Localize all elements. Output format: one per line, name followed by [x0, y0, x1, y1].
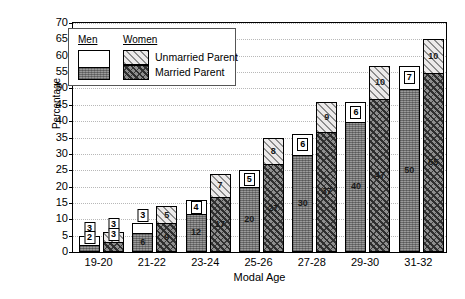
y-tick-label: 70 — [28, 17, 68, 28]
women-married-value: 37 — [321, 187, 333, 196]
y-tick-label: 5 — [28, 230, 68, 241]
y-tick-mark — [69, 252, 73, 253]
women-unmarried-value: 10 — [374, 78, 386, 87]
men-married-segment: 40 — [346, 122, 365, 251]
men-unmarried-value: 6 — [350, 106, 361, 119]
y-tick-label: 40 — [28, 115, 68, 126]
men-married-value: 40 — [350, 182, 362, 191]
y-tick-label: 20 — [28, 181, 68, 192]
y-tick-label: 15 — [28, 197, 68, 208]
women-unmarried-segment: 8 — [264, 139, 283, 165]
women-married-segment: 9 — [157, 223, 176, 251]
men-married-segment: 20 — [240, 187, 259, 251]
men-unmarried-segment: 5 — [240, 171, 259, 187]
y-axis-ticks: 7065605550454035302520151050 — [22, 22, 68, 253]
men-bar: 630 — [292, 134, 313, 252]
men-married-value: 20 — [243, 215, 255, 224]
men-married-value: 30 — [297, 199, 309, 208]
women-married-segment: 27 — [264, 164, 283, 251]
women-married-segment: 3 — [104, 242, 123, 251]
men-unmarried-value: 5 — [244, 173, 255, 186]
women-unmarried-segment: 7 — [211, 175, 230, 197]
x-tick-label: 31-32 — [392, 256, 445, 268]
women-unmarried-value: 7 — [217, 181, 224, 190]
legend-label-married: Married Parent — [155, 65, 224, 80]
bar-chart: Percentage 7065605550454035302520151050 … — [0, 0, 465, 299]
women-married-segment: 37 — [317, 132, 336, 251]
y-tick-label: 65 — [28, 33, 68, 44]
women-bar: 937 — [316, 102, 337, 252]
women-unmarried-value: 10 — [427, 52, 439, 61]
women-unmarried-segment: 5 — [157, 207, 176, 223]
x-tick-label: 19-20 — [72, 256, 125, 268]
chart-legend: Men Women Unmarried Parent Married Paren… — [68, 28, 236, 86]
men-married-segment: 30 — [293, 155, 312, 251]
legend-swatch-women-married — [123, 65, 149, 80]
women-married-segment: 47 — [370, 99, 389, 251]
men-unmarried-value: 3 — [137, 209, 148, 222]
men-unmarried-segment: 4 — [187, 201, 206, 214]
women-bar: 1055 — [423, 39, 444, 252]
men-unmarried-value: 4 — [191, 201, 202, 214]
women-bar: 59 — [156, 206, 177, 252]
x-tick-label: 25-26 — [232, 256, 285, 268]
y-tick-label: 10 — [28, 213, 68, 224]
women-married-value: 3 — [108, 228, 119, 241]
women-unmarried-segment: 9 — [317, 103, 336, 132]
men-married-value: 12 — [190, 228, 202, 237]
legend-header-women: Women — [123, 34, 157, 45]
women-unmarried-value: 9 — [323, 113, 330, 122]
men-married-value: 6 — [139, 238, 146, 247]
men-married-value: 50 — [403, 166, 415, 175]
women-married-value: 27 — [267, 204, 279, 213]
women-unmarried-segment: 10 — [370, 67, 389, 99]
bar-group: 520827 — [233, 23, 286, 252]
women-bar: 33 — [103, 232, 124, 252]
women-married-segment: 55 — [424, 73, 443, 251]
x-tick-label: 23-24 — [179, 256, 232, 268]
women-unmarried-value: 8 — [270, 147, 277, 156]
women-unmarried-value: 5 — [163, 211, 170, 220]
women-married-value: 47 — [374, 171, 386, 180]
men-married-segment: 6 — [133, 233, 152, 251]
bar-group: 6401047 — [339, 23, 392, 252]
y-tick-label: 30 — [28, 148, 68, 159]
x-axis-title: Modal Age — [72, 271, 447, 283]
women-married-segment: 17 — [211, 197, 230, 251]
women-married-value: 55 — [427, 158, 439, 167]
women-married-value: 17 — [214, 220, 226, 229]
men-unmarried-segment: 6 — [346, 103, 365, 122]
bar-group: 7501055 — [393, 23, 446, 252]
x-tick-label: 27-28 — [285, 256, 338, 268]
legend-swatch-women-unmarried — [123, 50, 149, 65]
women-unmarried-segment: 10 — [424, 40, 443, 72]
women-bar: 1047 — [369, 66, 390, 252]
men-unmarried-value: 6 — [297, 138, 308, 151]
men-bar: 412 — [186, 200, 207, 252]
men-bar: 640 — [345, 102, 366, 252]
men-bar: 32 — [79, 236, 100, 252]
women-bar: 827 — [263, 138, 284, 253]
legend-label-unmarried: Unmarried Parent — [155, 50, 238, 65]
y-tick-label: 50 — [28, 82, 68, 93]
y-tick-label: 0 — [28, 246, 68, 257]
men-bar: 36 — [132, 223, 153, 252]
y-tick-label: 45 — [28, 99, 68, 110]
x-axis-ticks: 19-2021-2223-2425-2627-2829-3031-32 — [72, 256, 447, 272]
y-tick-label: 60 — [28, 50, 68, 61]
men-unmarried-segment: 7 — [400, 67, 419, 90]
legend-swatch-men-married — [79, 67, 109, 79]
women-married-value: 9 — [163, 233, 170, 242]
men-married-segment: 2 — [80, 245, 99, 251]
legend-header-men: Men — [78, 34, 97, 45]
legend-swatch-men — [78, 50, 110, 80]
men-unmarried-segment: 3 — [133, 224, 152, 233]
bar-group: 630937 — [286, 23, 339, 252]
y-tick-label: 55 — [28, 66, 68, 77]
men-married-value: 2 — [84, 231, 95, 244]
women-bar: 717 — [210, 174, 231, 253]
men-bar: 750 — [399, 66, 420, 252]
men-bar: 520 — [239, 170, 260, 252]
men-married-segment: 12 — [187, 214, 206, 251]
men-unmarried-value: 7 — [404, 71, 415, 84]
